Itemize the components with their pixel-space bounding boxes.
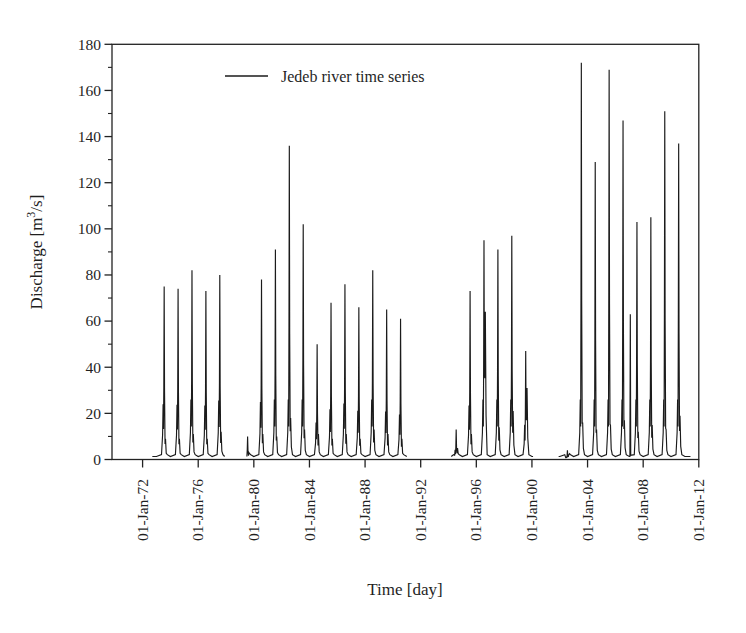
- x-tick-label: 01-Jan-04: [579, 479, 596, 541]
- chart: 020406080100120140160180 01-Jan-7201-Jan…: [0, 0, 746, 633]
- x-tick-label: 01-Jan-96: [467, 479, 484, 541]
- x-axis-ticks: 01-Jan-7201-Jan-7601-Jan-8001-Jan-8401-J…: [134, 460, 707, 542]
- y-tick-label: 120: [78, 174, 102, 191]
- x-tick-label: 01-Jan-92: [412, 479, 429, 541]
- x-tick-label: 01-Jan-08: [634, 479, 651, 541]
- y-tick-label: 160: [78, 82, 102, 99]
- x-tick-label: 01-Jan-80: [245, 479, 262, 541]
- legend: Jedeb river time series: [225, 68, 425, 85]
- y-tick-label: 40: [86, 359, 102, 376]
- x-tick-label: 01-Jan-76: [189, 479, 206, 541]
- y-axis-title: Discharge [m3/s]: [24, 195, 46, 310]
- y-tick-label: 60: [86, 312, 102, 329]
- y-tick-label: 20: [86, 405, 102, 422]
- y-tick-label: 100: [78, 220, 102, 237]
- y-axis-ticks: 020406080100120140160180: [78, 36, 112, 468]
- y-tick-label: 180: [78, 36, 102, 53]
- series-line: [152, 63, 690, 458]
- legend-label: Jedeb river time series: [281, 68, 425, 85]
- plot-frame: [112, 44, 699, 459]
- x-tick-label: 01-Jan-72: [134, 479, 151, 541]
- y-tick-label: 80: [86, 266, 102, 283]
- x-tick-label: 01-Jan-12: [690, 479, 707, 541]
- discharge-time-series-figure: 020406080100120140160180 01-Jan-7201-Jan…: [0, 0, 746, 633]
- y-tick-label: 140: [78, 128, 102, 145]
- series-group: [152, 63, 690, 458]
- x-axis-title: Time [day]: [367, 580, 442, 599]
- y-tick-label: 0: [93, 451, 101, 468]
- x-tick-label: 01-Jan-88: [356, 479, 373, 541]
- x-tick-label: 01-Jan-00: [523, 479, 540, 541]
- x-tick-label: 01-Jan-84: [301, 479, 318, 541]
